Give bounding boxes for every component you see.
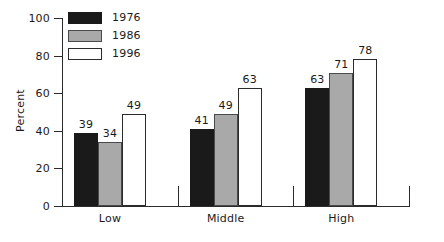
legend-label: 1996 bbox=[112, 47, 141, 60]
y-axis-tick bbox=[54, 131, 62, 132]
bar-chart: Percent 020406080100 393449414963637178 … bbox=[0, 0, 444, 242]
bar-value-label: 63 bbox=[232, 74, 268, 85]
legend-item: 1986 bbox=[68, 28, 141, 43]
y-axis-title: Percent bbox=[14, 71, 27, 151]
legend-swatch bbox=[68, 30, 102, 42]
legend-item: 1996 bbox=[68, 46, 141, 61]
x-axis-line bbox=[62, 206, 409, 207]
x-axis-separator bbox=[409, 186, 410, 207]
y-axis-tick-label: 80 bbox=[10, 51, 50, 62]
bar-value-label: 49 bbox=[116, 100, 152, 111]
y-axis-tick bbox=[54, 168, 62, 169]
y-axis-tick-label: 100 bbox=[10, 13, 50, 24]
bar bbox=[305, 88, 329, 206]
y-axis-tick bbox=[54, 18, 62, 19]
x-axis-category-label: Low bbox=[70, 212, 150, 225]
y-axis-tick-label: 40 bbox=[10, 126, 50, 137]
bar bbox=[74, 133, 98, 206]
bar bbox=[214, 114, 238, 206]
x-axis-separator bbox=[178, 186, 179, 207]
bar bbox=[190, 129, 214, 206]
y-axis-tick bbox=[54, 56, 62, 57]
x-axis-category-label: Middle bbox=[186, 212, 266, 225]
bar bbox=[122, 114, 146, 206]
y-axis-tick-label: 20 bbox=[10, 163, 50, 174]
legend-swatch bbox=[68, 12, 102, 24]
x-axis-separator bbox=[293, 186, 294, 207]
x-axis-category-label: High bbox=[301, 212, 381, 225]
y-axis-tick bbox=[54, 206, 62, 207]
bar bbox=[353, 59, 377, 206]
legend-item: 1976 bbox=[68, 10, 141, 25]
bar-value-label: 78 bbox=[347, 45, 383, 56]
y-axis-tick-label: 60 bbox=[10, 88, 50, 99]
y-axis-tick-label: 0 bbox=[10, 201, 50, 212]
bar bbox=[329, 73, 353, 206]
legend-label: 1986 bbox=[112, 29, 141, 42]
bar bbox=[238, 88, 262, 206]
legend: 197619861996 bbox=[68, 10, 141, 64]
bar bbox=[98, 142, 122, 206]
legend-swatch bbox=[68, 48, 102, 60]
y-axis-tick bbox=[54, 93, 62, 94]
legend-label: 1976 bbox=[112, 11, 141, 24]
